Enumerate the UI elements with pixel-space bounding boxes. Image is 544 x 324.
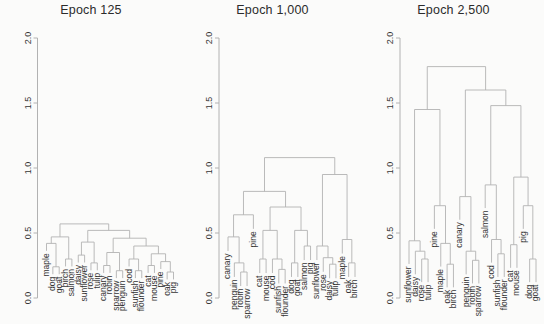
leaf-label: goat bbox=[531, 284, 541, 301]
leaf-label: sparrow bbox=[242, 288, 252, 319]
leaf-label: salmon bbox=[480, 210, 490, 238]
dendrogram-epoch-125: 0.00.51.01.52.0mapledoggoatbirchsalmonda… bbox=[0, 0, 182, 324]
y-axis-tick-label: 1.5 bbox=[385, 97, 395, 110]
y-axis-tick-label: 2.0 bbox=[204, 32, 214, 45]
y-axis-tick-label: 1.0 bbox=[385, 162, 395, 175]
y-axis-tick-label: 0.5 bbox=[204, 227, 214, 240]
leaf-label: maple bbox=[41, 253, 51, 276]
y-axis-tick-label: 2.0 bbox=[23, 32, 33, 45]
leaf-label: flounder bbox=[499, 279, 509, 310]
leaf-label: cod bbox=[124, 269, 134, 283]
panel-epoch-2500: Epoch 2,500 0.00.51.01.52.0sunflowerdais… bbox=[363, 0, 544, 324]
leaf-label: pine bbox=[429, 231, 439, 247]
leaf-label: penguin bbox=[117, 280, 127, 311]
leaf-label: tulip bbox=[330, 280, 340, 296]
y-axis-tick-label: 1.0 bbox=[204, 162, 214, 175]
leaf-label: maple bbox=[435, 269, 445, 292]
y-axis-tick-label: 0.0 bbox=[23, 292, 33, 305]
y-axis-tick-label: 0.5 bbox=[385, 227, 395, 240]
y-axis-tick-label: 0.5 bbox=[23, 227, 33, 240]
leaf-label: birch bbox=[350, 279, 360, 298]
dendrogram-epoch-1000: 0.00.51.01.52.0canarypenguinrobinsparrow… bbox=[182, 0, 363, 324]
leaf-label: canary bbox=[454, 221, 464, 247]
y-axis-tick-label: 2.0 bbox=[385, 32, 395, 45]
y-axis-tick-label: 1.0 bbox=[23, 162, 33, 175]
panel-epoch-1000: Epoch 1,000 0.00.51.01.52.0canarypenguin… bbox=[182, 0, 363, 324]
leaf-label: pig bbox=[518, 231, 528, 243]
leaf-label: sparrow bbox=[473, 285, 483, 316]
leaf-label: pig bbox=[168, 282, 178, 294]
dendrogram-epoch-2500: 0.00.51.01.52.0sunflowerdaisyrosetulippi… bbox=[363, 0, 544, 324]
leaf-label: canary bbox=[223, 253, 233, 279]
leaf-label: maple bbox=[337, 256, 347, 279]
leaf-label: tulip bbox=[423, 284, 433, 300]
y-axis-tick-label: 1.5 bbox=[204, 97, 214, 110]
leaf-label: pine bbox=[248, 231, 258, 247]
leaf-label: mouse bbox=[511, 270, 521, 296]
leaf-label: birch bbox=[448, 290, 458, 309]
y-axis-tick-label: 1.5 bbox=[23, 97, 33, 110]
leaf-label: cod bbox=[486, 265, 496, 279]
y-axis-tick-label: 0.0 bbox=[385, 292, 395, 305]
dendrogram-figure: Epoch 125 0.00.51.01.52.0mapledoggoatbir… bbox=[0, 0, 544, 324]
panel-epoch-125: Epoch 125 0.00.51.01.52.0mapledoggoatbir… bbox=[0, 0, 182, 324]
y-axis-tick-label: 0.0 bbox=[204, 292, 214, 305]
